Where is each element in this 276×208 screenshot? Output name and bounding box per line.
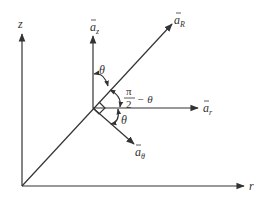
- angle-arc-pi2-theta: [110, 90, 120, 107]
- svg-text:π: π: [126, 85, 132, 97]
- r-axis-label: r: [249, 179, 254, 193]
- angle-label-theta-bottom: θ: [121, 113, 127, 127]
- diagram-canvas: z r aR az ar aθ θ π 2 − θ: [0, 0, 276, 208]
- z-axis-label: z: [17, 17, 23, 31]
- angle-arc-theta-bottom: [111, 109, 118, 124]
- angle-label-theta-top: θ: [99, 63, 105, 77]
- vector-label-az: az: [90, 20, 100, 36]
- svg-text:− θ: − θ: [137, 93, 153, 105]
- vector-label-aR: aR: [174, 13, 185, 29]
- angle-label-pi2-theta: π 2 − θ: [124, 85, 153, 110]
- radial-vector-aR: [22, 24, 172, 186]
- vector-label-atheta: aθ: [135, 145, 145, 161]
- svg-text:2: 2: [126, 98, 132, 110]
- vector-label-ar: ar: [203, 101, 213, 117]
